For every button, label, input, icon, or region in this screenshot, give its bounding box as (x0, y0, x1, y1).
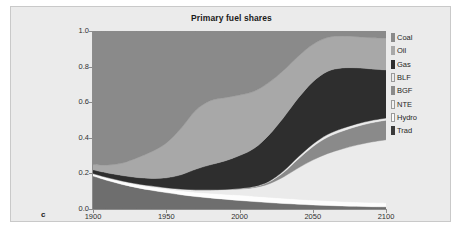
legend-label: NTE (397, 100, 412, 109)
stacked-area-svg (93, 31, 386, 209)
legend-swatch-icon (391, 73, 395, 82)
legend-label: Coal (397, 33, 412, 42)
legend-item-bgf[interactable]: BGF (391, 84, 449, 97)
x-tick-label: 2000 (220, 213, 260, 221)
figure-root: Primary fuel shares c 0.00.20.40.60.81.0… (0, 0, 461, 241)
x-tick-label: 2050 (293, 213, 333, 221)
x-tick-label: 2100 (366, 213, 406, 221)
legend-item-hydro[interactable]: Hydro (391, 111, 449, 124)
x-tick-mark (166, 210, 167, 213)
plot-area (93, 31, 386, 209)
legend-item-gas[interactable]: Gas (391, 58, 449, 71)
legend-swatch-icon (391, 100, 395, 109)
x-tick-label: 1950 (146, 213, 186, 221)
legend-item-coal[interactable]: Coal (391, 31, 449, 44)
legend-swatch-icon (391, 46, 395, 55)
x-tick-mark (93, 210, 94, 213)
legend-item-trad[interactable]: Trad (391, 124, 449, 137)
x-tick-mark (240, 210, 241, 213)
chart-panel: Primary fuel shares c 0.00.20.40.60.81.0… (10, 6, 451, 222)
legend-item-nte[interactable]: NTE (391, 97, 449, 110)
legend-swatch-icon (391, 126, 395, 135)
legend-swatch-icon (391, 33, 395, 42)
x-tick-label: 1900 (73, 213, 113, 221)
legend-label: Gas (397, 60, 411, 69)
legend-label: BLF (397, 73, 411, 82)
chart-legend: CoalOilGasBLFBGFNTEHydroTrad (391, 31, 449, 137)
legend-swatch-icon (391, 86, 395, 95)
legend-label: Oil (397, 46, 406, 55)
x-tick-mark (313, 210, 314, 213)
legend-swatch-icon (391, 113, 395, 122)
legend-item-blf[interactable]: BLF (391, 71, 449, 84)
legend-swatch-icon (391, 60, 395, 69)
legend-label: Trad (397, 126, 412, 135)
legend-label: Hydro (397, 113, 417, 122)
legend-label: BGF (397, 86, 412, 95)
x-tick-mark (386, 210, 387, 213)
legend-item-oil[interactable]: Oil (391, 44, 449, 57)
